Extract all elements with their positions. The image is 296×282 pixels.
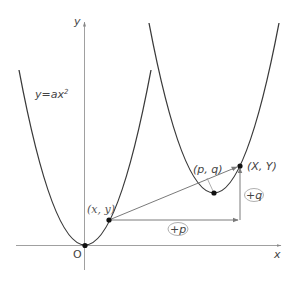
translation-q-label: +q	[246, 189, 262, 202]
x-axis-label: x	[273, 248, 281, 261]
curve-label: y=ax2	[34, 88, 69, 101]
curve-label-prefix: y=	[34, 88, 51, 101]
vertex-point	[211, 190, 216, 195]
point-original	[106, 217, 111, 222]
origin-label: O	[73, 248, 82, 261]
translation-diagram: y x O y=ax2 (x, y) (X, Y) (p, q) +p +q	[0, 0, 296, 282]
origin-point	[82, 243, 87, 248]
translation-p-label: +p	[170, 223, 186, 236]
point-original-label: (x, y)	[87, 203, 115, 216]
vertex-leader-line	[207, 178, 213, 191]
point-image-label: (X, Y)	[247, 160, 277, 173]
point-image	[237, 163, 242, 168]
vertex-label: (p, q)	[193, 163, 223, 176]
curve-label-exp: 2	[64, 88, 69, 96]
y-axis-label: y	[73, 15, 81, 28]
